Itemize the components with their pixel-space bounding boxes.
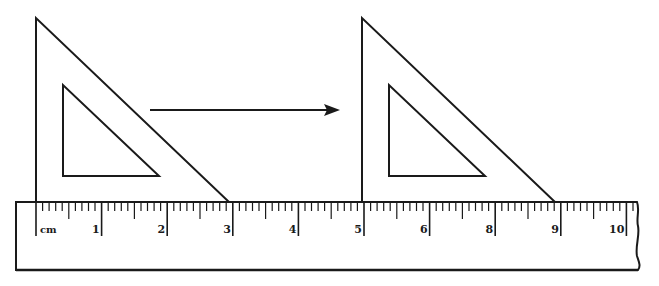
ruler-label: 2 <box>158 223 166 236</box>
ruler-label: 8 <box>486 223 494 236</box>
ruler-label: 6 <box>420 223 428 236</box>
ruler: cm1234568910 <box>16 202 640 270</box>
ruler-label: 1 <box>92 223 100 236</box>
translation-diagram: cm1234568910 <box>0 0 659 286</box>
ruler-outline <box>16 202 640 270</box>
ruler-label: 4 <box>289 223 297 236</box>
ruler-label: 10 <box>609 223 625 236</box>
ruler-label: 5 <box>354 223 362 236</box>
triangle-original-inner <box>63 85 159 176</box>
triangle-translated-inner <box>389 85 485 176</box>
ruler-label: 3 <box>223 223 231 236</box>
ruler-unit-label: cm <box>40 224 57 235</box>
triangle-translated-outer <box>362 18 555 202</box>
triangle-translated <box>362 18 555 202</box>
translation-arrow <box>150 104 340 116</box>
ruler-label: 9 <box>551 223 559 236</box>
